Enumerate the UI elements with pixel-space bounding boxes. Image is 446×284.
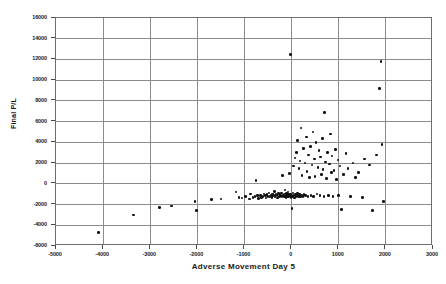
x-tick-label: 0: [271, 251, 311, 257]
x-tick-label: -4000: [82, 251, 122, 257]
y-tick-label: 0: [7, 180, 47, 186]
y-tick-label: 12000: [7, 55, 47, 61]
scatter-chart: Final P/L -6000-4000-2000020004000600080…: [0, 0, 446, 284]
y-tick-label: -4000: [7, 221, 47, 227]
y-tick-mark: [51, 182, 55, 183]
x-tick-mark: [243, 245, 244, 249]
y-tick-label: 2000: [7, 159, 47, 165]
x-tick-mark: [149, 245, 150, 249]
y-tick-mark: [51, 120, 55, 121]
y-tick-label: -6000: [7, 242, 47, 248]
x-tick-label: -1000: [224, 251, 264, 257]
x-tick-label: -2000: [176, 251, 216, 257]
y-tick-label: -2000: [7, 201, 47, 207]
y-tick-mark: [51, 203, 55, 204]
y-tick-label: 10000: [7, 76, 47, 82]
y-tick-mark: [51, 224, 55, 225]
y-tick-label: 6000: [7, 118, 47, 124]
x-tick-mark: [384, 245, 385, 249]
x-tick-mark: [432, 245, 433, 249]
x-tick-mark: [337, 245, 338, 249]
x-tick-mark: [55, 245, 56, 249]
x-tick-label: -5000: [35, 251, 75, 257]
x-axis-title: Adverse Movement Day 5: [55, 262, 432, 271]
axis-ticks-layer: -6000-4000-20000200040006000800010000120…: [0, 0, 446, 284]
y-tick-mark: [51, 17, 55, 18]
x-tick-label: 3000: [412, 251, 446, 257]
x-tick-mark: [196, 245, 197, 249]
x-tick-label: 1000: [318, 251, 358, 257]
x-tick-mark: [290, 245, 291, 249]
y-tick-mark: [51, 141, 55, 142]
y-tick-mark: [51, 37, 55, 38]
y-tick-label: 8000: [7, 97, 47, 103]
y-tick-mark: [51, 79, 55, 80]
x-tick-mark: [102, 245, 103, 249]
y-tick-label: 14000: [7, 35, 47, 41]
y-tick-label: 16000: [7, 14, 47, 20]
y-tick-label: 4000: [7, 138, 47, 144]
y-tick-mark: [51, 162, 55, 163]
x-tick-label: 2000: [365, 251, 405, 257]
y-tick-mark: [51, 99, 55, 100]
y-tick-mark: [51, 58, 55, 59]
x-tick-label: -3000: [129, 251, 169, 257]
